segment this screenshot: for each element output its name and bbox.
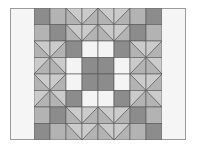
quilt-block	[34, 8, 162, 140]
